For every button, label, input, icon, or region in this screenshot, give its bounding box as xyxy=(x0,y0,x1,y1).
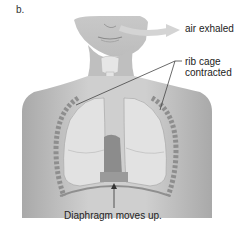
rib-cage-label-line2: contracted xyxy=(185,67,232,78)
rib-cage-label-line1: rib cage xyxy=(185,56,232,67)
rib-cage-label: rib cage contracted xyxy=(185,56,232,78)
mediastinum-base xyxy=(100,172,128,182)
diaphragm-label: Diaphragm moves up. xyxy=(64,210,162,221)
torso-illustration xyxy=(0,0,243,238)
air-exhaled-label: air exhaled xyxy=(185,23,234,34)
head xyxy=(74,16,148,57)
heart xyxy=(104,135,122,178)
